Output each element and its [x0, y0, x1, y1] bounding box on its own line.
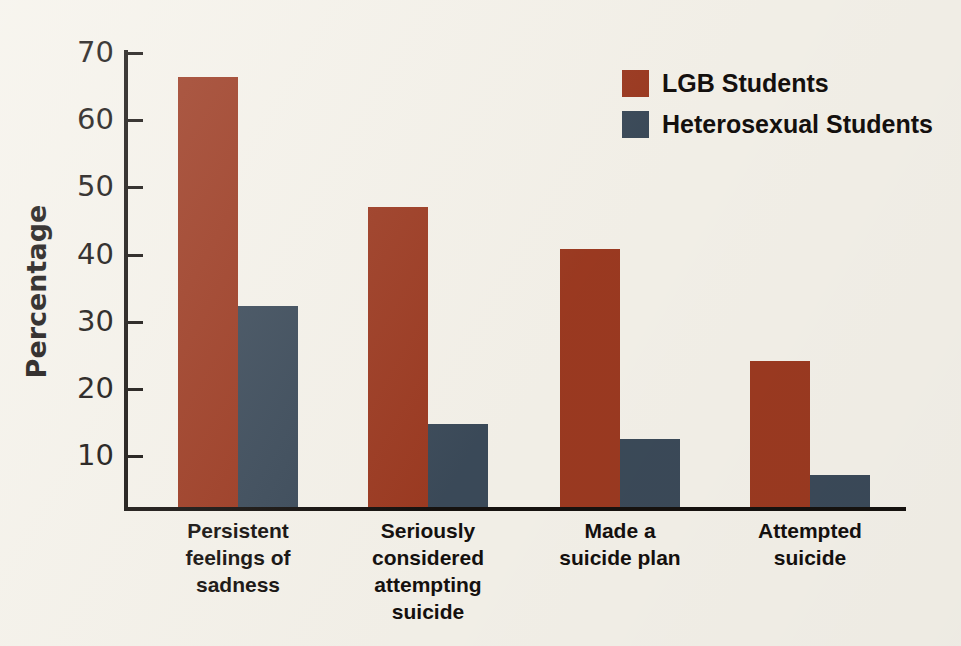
legend-item-heterosexual: Heterosexual Students: [622, 109, 933, 139]
bar-lgb-0: [178, 77, 238, 507]
y-tick-label-30: 30: [50, 307, 114, 336]
category-label-line: considered: [318, 545, 538, 572]
y-tick-label-10: 10: [50, 441, 114, 470]
category-label-1: Seriouslyconsideredattemptingsuicide: [318, 518, 538, 626]
bar-hetero-1: [428, 424, 488, 507]
category-label-line: attempting: [318, 572, 538, 599]
y-tick-label-40: 40: [50, 240, 114, 269]
category-label-line: suicide: [700, 545, 920, 572]
category-label-line: Seriously: [318, 518, 538, 545]
y-tick-label-20: 20: [50, 374, 114, 403]
category-label-line: sadness: [128, 572, 348, 599]
bar-lgb-3: [750, 361, 810, 507]
category-label-2: Made asuicide plan: [510, 518, 730, 572]
legend-label-heterosexual: Heterosexual Students: [662, 110, 933, 139]
y-tick-label-60: 60: [50, 105, 114, 134]
bar-hetero-2: [620, 439, 680, 507]
category-label-line: suicide plan: [510, 545, 730, 572]
bar-chart: Percentage 70605040302010 Persistentfeel…: [0, 0, 961, 646]
y-tick-label-50: 50: [50, 172, 114, 201]
legend-item-lgb: LGB Students: [622, 68, 933, 98]
bar-lgb-1: [368, 207, 428, 507]
bar-hetero-3: [810, 475, 870, 507]
category-label-0: Persistentfeelings ofsadness: [128, 518, 348, 599]
legend-swatch-icon-lgb: [622, 70, 649, 97]
y-tick-label-70: 70: [50, 38, 114, 67]
chart-legend: LGB Students Heterosexual Students: [622, 68, 933, 150]
bar-hetero-0: [238, 306, 298, 507]
category-label-line: Persistent: [128, 518, 348, 545]
bar-lgb-2: [560, 249, 620, 507]
legend-swatch-icon-heterosexual: [622, 111, 649, 138]
x-axis-line: [124, 507, 906, 511]
legend-label-lgb: LGB Students: [662, 69, 829, 98]
category-label-3: Attemptedsuicide: [700, 518, 920, 572]
category-label-line: Attempted: [700, 518, 920, 545]
category-label-line: suicide: [318, 599, 538, 626]
category-label-line: Made a: [510, 518, 730, 545]
category-label-line: feelings of: [128, 545, 348, 572]
y-axis-title: Percentage: [21, 192, 52, 392]
